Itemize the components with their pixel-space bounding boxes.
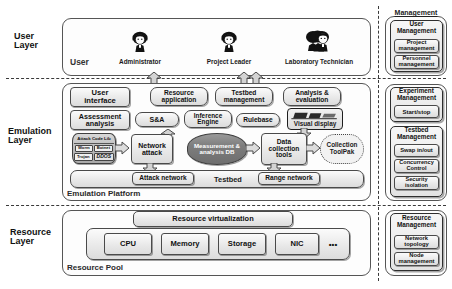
testbed-center-label: Testbed xyxy=(200,175,256,184)
attack-code-lib-panel[interactable]: Attack Code Lib Worm Botnet Trojan DDOS xyxy=(72,133,116,164)
resource-application-button[interactable]: Resource application xyxy=(150,87,208,106)
role-label-project-leader: Project Leader xyxy=(194,58,264,65)
resource-item-ellipsis: ••• xyxy=(322,240,344,249)
user-management-title: User Management xyxy=(390,21,443,34)
resource-management-title: Resource Management xyxy=(390,215,443,228)
resource-virtualization-box[interactable]: Resource virtualization xyxy=(133,211,293,227)
attack-item-botnet[interactable]: Botnet xyxy=(94,145,113,152)
start-stop-button[interactable]: Start/stop xyxy=(394,105,439,118)
experiment-management-title: Experiment Management xyxy=(390,88,443,101)
separator-management-column-2 xyxy=(378,80,379,204)
visual-display-panel[interactable]: Visual display xyxy=(287,108,343,130)
diagram-root: User Layer Emulation Layer Resource Laye… xyxy=(0,0,452,289)
network-attack-box[interactable]: Network attack xyxy=(131,134,173,164)
inference-engine-button[interactable]: Inference Engine xyxy=(184,110,232,128)
attack-network-button[interactable]: Attack network xyxy=(132,172,194,185)
resource-item-cpu[interactable]: CPU xyxy=(104,233,152,255)
person-group-icon-laboratory-technician xyxy=(300,29,336,54)
layer-label-user: User Layer xyxy=(14,32,38,51)
visual-display-label: Visual display xyxy=(294,121,337,127)
emulation-platform-label: Emulation Platform xyxy=(67,189,140,198)
testbed-management-button[interactable]: Testbed management xyxy=(215,87,273,106)
security-isolation-button[interactable]: Security isolation xyxy=(394,176,439,190)
person-icon-project-leader xyxy=(216,30,242,54)
collection-toolpak-box[interactable]: Collection ToolPak xyxy=(320,134,364,164)
resource-pool-label: Resource Pool xyxy=(67,263,123,272)
role-label-administrator: Administrator xyxy=(105,58,175,65)
node-management-button[interactable]: Node management xyxy=(394,252,439,266)
attack-item-trojan[interactable]: Trojan xyxy=(74,153,93,161)
assessment-analysis-title[interactable]: Assessment analysis xyxy=(70,110,130,130)
network-topology-button[interactable]: Network topology xyxy=(394,235,439,249)
separator-emulation-resource xyxy=(6,205,446,206)
data-collection-tools-box[interactable]: Data collection tools xyxy=(261,133,307,165)
project-management-button[interactable]: Project management xyxy=(394,39,439,53)
layer-label-resource: Resource Layer xyxy=(10,228,51,247)
attack-code-lib-title: Attack Code Lib xyxy=(74,136,114,144)
attack-item-ddos[interactable]: DDOS xyxy=(94,153,114,161)
person-icon-administrator xyxy=(127,30,153,54)
role-label-laboratory-technician: Laboratory Technician xyxy=(281,58,357,65)
testbed-management-title: Testbed Management xyxy=(390,127,443,140)
management-header: Management xyxy=(385,9,447,16)
user-row-label: User xyxy=(70,57,89,67)
attack-item-worm[interactable]: Worm xyxy=(75,145,93,152)
concurrency-control-button[interactable]: Concurrency Control xyxy=(394,159,439,173)
arrow-db-to-collection xyxy=(246,141,262,155)
swap-in-out-button[interactable]: Swap in/out xyxy=(394,144,439,157)
arrow-attacklib-to-network xyxy=(115,141,131,155)
rulebase-button[interactable]: Rulebase xyxy=(236,113,280,127)
resource-item-storage[interactable]: Storage xyxy=(218,233,266,255)
range-network-button[interactable]: Range network xyxy=(258,172,320,185)
user-interface-title[interactable]: User interface xyxy=(70,87,130,107)
measurement-analysis-db[interactable]: Measurement & analysis DB xyxy=(187,133,247,165)
layer-label-emulation: Emulation Layer xyxy=(8,127,52,146)
separator-management-column xyxy=(378,6,379,78)
resource-item-memory[interactable]: Memory xyxy=(161,233,209,255)
sa-button[interactable]: S&A xyxy=(135,112,179,127)
analysis-evaluation-button[interactable]: Analysis & evaluation xyxy=(283,87,341,106)
personnel-management-button[interactable]: Personnel management xyxy=(394,55,439,69)
separator-management-column-3 xyxy=(378,207,379,281)
resource-item-nic[interactable]: NIC xyxy=(275,233,319,255)
